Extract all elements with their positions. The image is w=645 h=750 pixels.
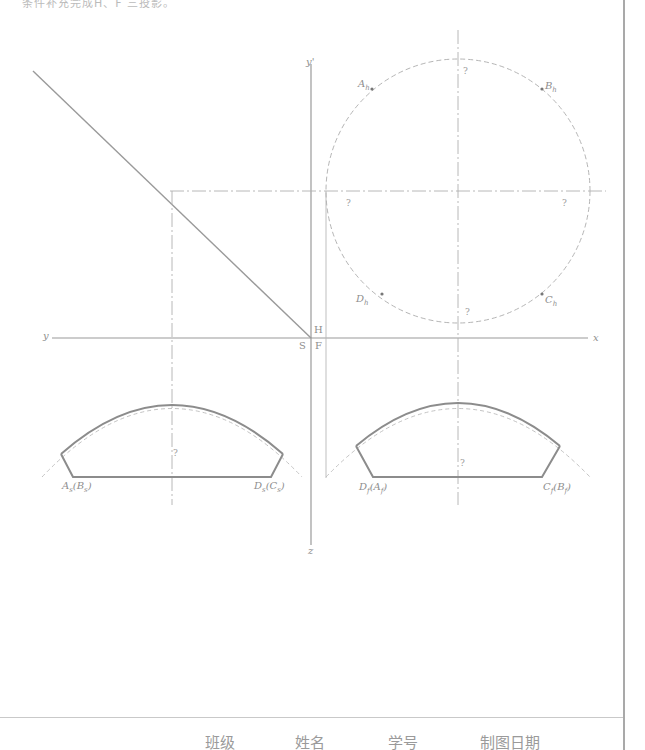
unknown-mark: ? bbox=[460, 459, 465, 468]
point-A-h bbox=[370, 87, 373, 90]
label-D-h: Dh bbox=[356, 294, 369, 307]
projection-drawing bbox=[0, 0, 645, 750]
x-axis-label: x bbox=[593, 333, 599, 343]
plane-S-label: S bbox=[299, 341, 306, 351]
point-D-h bbox=[380, 292, 383, 295]
label-Df-Af: Df(Af) bbox=[359, 482, 387, 495]
label-C-h: Ch bbox=[545, 295, 557, 308]
date-label: 制图日期 bbox=[480, 731, 540, 750]
label-A-h: Ah bbox=[358, 79, 370, 92]
y-prime-label: y' bbox=[306, 57, 314, 67]
label-Cf-Bf: Cf(Bf) bbox=[543, 482, 571, 495]
name-label: 姓名 bbox=[295, 731, 325, 750]
title-block: 班级 姓名 学号 制图日期 bbox=[0, 717, 623, 750]
class-label: 班级 bbox=[205, 731, 235, 750]
label-B-h: Bh bbox=[545, 81, 557, 94]
unknown-mark: ? bbox=[562, 199, 567, 208]
plane-H-label: H bbox=[314, 325, 323, 335]
y-axis-label: y bbox=[43, 331, 49, 341]
unknown-mark: ? bbox=[463, 67, 468, 76]
label-As-Bs: As(Bs) bbox=[62, 481, 92, 494]
unknown-mark: ? bbox=[465, 308, 470, 317]
point-C-h bbox=[540, 292, 543, 295]
label-Ds-Cs: Ds(Cs) bbox=[254, 481, 285, 494]
unknown-mark: ? bbox=[346, 199, 351, 208]
unknown-mark: ? bbox=[173, 449, 178, 458]
page-border bbox=[623, 0, 625, 750]
z-axis-label: z bbox=[308, 546, 313, 556]
point-B-h bbox=[540, 87, 543, 90]
student-id-label: 学号 bbox=[388, 731, 418, 750]
plane-F-label: F bbox=[315, 341, 322, 351]
